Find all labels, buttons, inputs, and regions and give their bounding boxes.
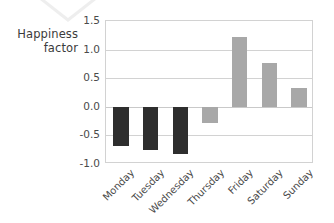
bar [232,37,247,107]
y-tick-label: 1.0 [64,43,100,55]
y-tick-label: -1.0 [64,157,100,169]
y-tick-label: 0.5 [64,71,100,83]
bar [262,63,277,106]
chart-figure: Happiness factor 1.51.00.50.0-0.5-1.0 Mo… [0,0,334,223]
gridline [106,50,312,51]
gridline [106,78,312,79]
bar [291,88,306,106]
y-tick-label: 1.5 [64,14,100,26]
y-axis-title-line1: Happiness [2,28,78,42]
bar [173,107,188,154]
y-tick-label: -0.5 [64,128,100,140]
bar [143,107,158,150]
plot-area [105,20,313,163]
gridline [106,135,312,136]
bar [113,107,128,146]
x-tick-label: Sunday [281,167,315,201]
bar [202,107,217,124]
y-tick-label: 0.0 [64,100,100,112]
